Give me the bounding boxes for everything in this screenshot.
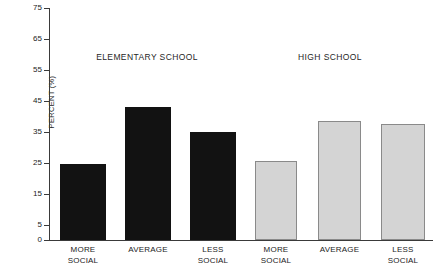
bar bbox=[125, 107, 171, 240]
x-axis-label: MORESOCIAL bbox=[246, 245, 306, 266]
x-axis-label-line: SOCIAL bbox=[246, 256, 306, 267]
bar bbox=[190, 132, 236, 240]
x-axis-label-line: AVERAGE bbox=[116, 245, 180, 256]
x-axis-label: LESSSOCIAL bbox=[181, 245, 245, 266]
x-axis-label-line: SOCIAL bbox=[51, 256, 115, 267]
bar bbox=[60, 164, 106, 240]
bar bbox=[318, 121, 361, 240]
x-axis-label-line: MORE bbox=[51, 245, 115, 256]
plot-area bbox=[0, 0, 439, 277]
x-axis-label-line: LESS bbox=[372, 245, 434, 256]
x-axis-label: MORESOCIAL bbox=[51, 245, 115, 266]
x-axis-label-line: LESS bbox=[181, 245, 245, 256]
x-axis-label-line: AVERAGE bbox=[309, 245, 370, 256]
x-axis-label: LESSSOCIAL bbox=[372, 245, 434, 266]
group-label: HIGH SCHOOL bbox=[265, 52, 395, 62]
x-axis-label-line: SOCIAL bbox=[372, 256, 434, 267]
x-axis-label-line: SOCIAL bbox=[181, 256, 245, 267]
group-label: ELEMENTARY SCHOOL bbox=[72, 52, 222, 62]
bar bbox=[255, 161, 297, 240]
bar-chart: PERCENT (%) 7565554535251550 MORESOCIALA… bbox=[0, 0, 439, 277]
bar bbox=[381, 124, 425, 240]
x-axis-label-line: MORE bbox=[246, 245, 306, 256]
x-axis-label: AVERAGE bbox=[309, 245, 370, 256]
x-axis-label: AVERAGE bbox=[116, 245, 180, 256]
